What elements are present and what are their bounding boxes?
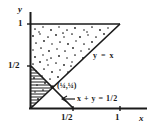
x-tick-label-half: 1/2 <box>61 113 73 122</box>
math-figure: y x 1 1/2 1/2 1 y = x (¼,¼) x + y = 1/2 <box>0 0 152 130</box>
x-tick-label-1: 1 <box>115 113 120 122</box>
x-axis-label: x <box>139 114 144 123</box>
line-label-x-plus-y: x + y = 1/2 <box>77 95 118 103</box>
y-axis-label: y <box>18 5 22 14</box>
line-label-y-equals-x: y = x <box>93 52 115 60</box>
intersection-point-marker <box>50 85 53 88</box>
y-tick-label-1: 1 <box>18 19 23 28</box>
y-tick-label-half: 1/2 <box>8 61 20 70</box>
annotation-arrow <box>62 96 75 102</box>
point-label-quarter-quarter: (¼,¼) <box>57 82 76 90</box>
